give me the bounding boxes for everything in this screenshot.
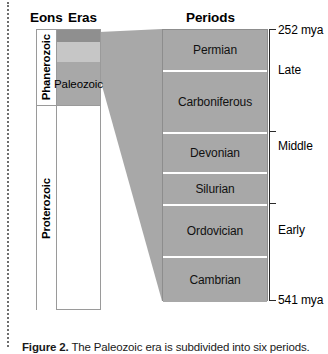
eon-label-phanerozoic: Phanerozoic xyxy=(41,34,53,100)
period-label-ordovician: Ordovician xyxy=(187,224,243,238)
period-cell-silurian: Silurian xyxy=(163,172,267,204)
age-label-bottom: 541 mya xyxy=(278,294,323,307)
era-label-paleozoic: Paleozoic xyxy=(54,78,103,90)
eon-cell-phanerozoic: Phanerozoic xyxy=(37,30,56,106)
eon-label-proterozoic: Proterozoic xyxy=(41,178,53,239)
period-cell-carboniferous: Carboniferous xyxy=(163,70,267,132)
column-heading-eras: Eras xyxy=(68,11,97,25)
bracket-tick-541mya xyxy=(269,300,276,301)
era-band-top xyxy=(57,30,100,42)
period-label-devonian: Devonian xyxy=(190,146,240,160)
period-label-silurian: Silurian xyxy=(195,182,234,196)
period-cell-ordovician: Ordovician xyxy=(163,204,267,256)
epoch-label-middle: Middle xyxy=(278,140,313,153)
eon-cell-proterozoic: Proterozoic xyxy=(37,106,56,311)
period-label-carboniferous: Carboniferous xyxy=(178,95,252,109)
epoch-label-early: Early xyxy=(278,224,305,237)
period-label-cambrian: Cambrian xyxy=(189,273,240,287)
figure-caption-label: Figure 2. xyxy=(22,341,69,353)
figure-caption-text: The Paleozoic era is subdivided into six… xyxy=(69,341,310,353)
age-label-top: 252 mya xyxy=(278,24,323,37)
periods-column: Permian Carboniferous Devonian Silurian … xyxy=(162,29,268,301)
bracket-tick-252mya xyxy=(269,29,276,30)
period-cell-devonian: Devonian xyxy=(163,132,267,172)
epoch-label-late: Late xyxy=(278,64,301,77)
figure-caption: Figure 2. The Paleozoic era is subdivide… xyxy=(22,341,322,354)
column-heading-periods: Periods xyxy=(186,11,235,25)
column-heading-eons: Eons xyxy=(30,11,63,25)
era-to-periods-connector xyxy=(99,28,165,313)
bracket-spine xyxy=(269,29,270,301)
eons-column: Phanerozoic Proterozoic xyxy=(36,29,57,310)
eras-phanerozoic-divider xyxy=(57,105,100,106)
bracket-tick-middle-early xyxy=(269,203,276,204)
eras-column: Paleozoic xyxy=(57,29,101,310)
era-band-middle xyxy=(57,42,100,62)
age-scale-bracket xyxy=(269,29,276,301)
bracket-tick-late-middle xyxy=(269,131,276,132)
period-label-permian: Permian xyxy=(193,43,237,57)
period-cell-permian: Permian xyxy=(163,30,267,70)
left-dotted-rule xyxy=(7,2,9,347)
period-cell-cambrian: Cambrian xyxy=(163,256,267,302)
era-band-paleozoic: Paleozoic xyxy=(57,62,100,105)
connector-shape xyxy=(99,28,165,313)
connector-polygon xyxy=(99,29,162,301)
